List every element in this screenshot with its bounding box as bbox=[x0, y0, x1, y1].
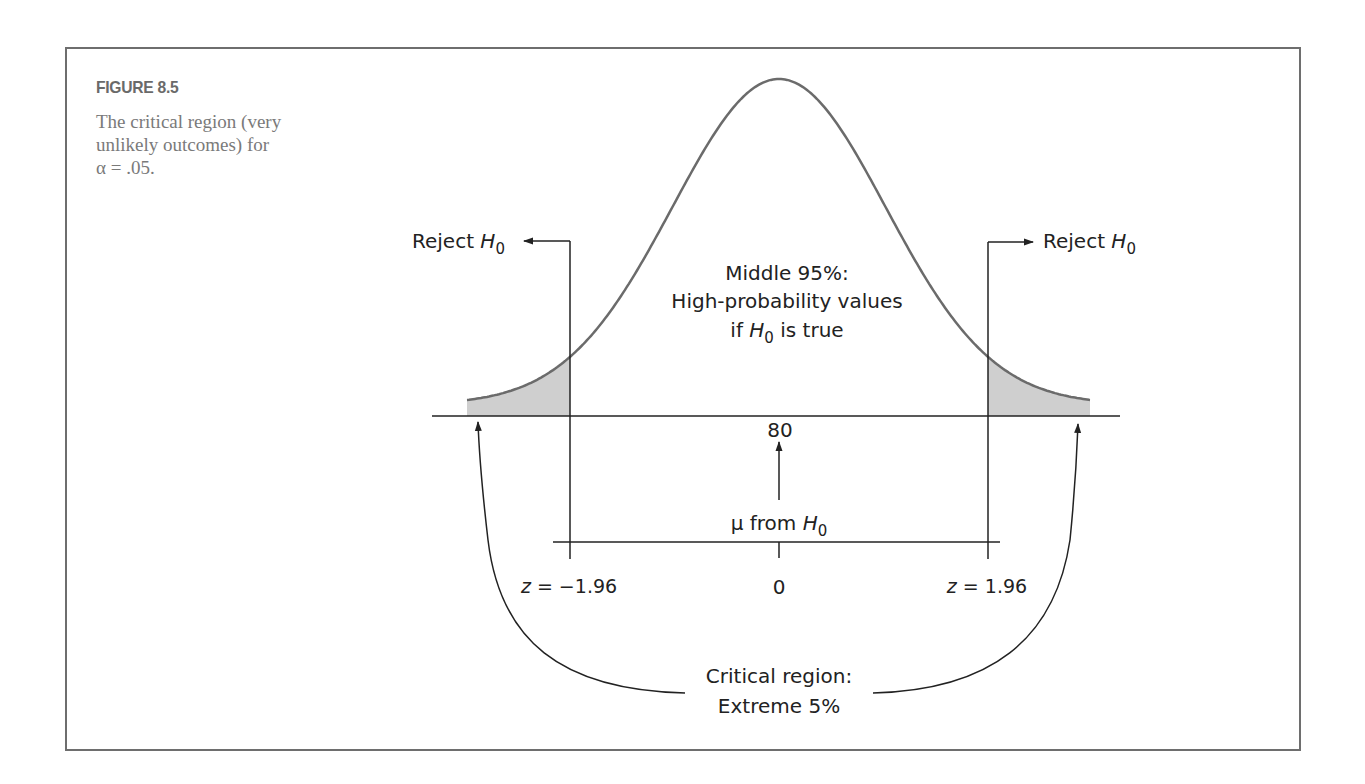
middle-95-label: Middle 95%: bbox=[725, 261, 849, 285]
extreme-5-label: Extreme 5% bbox=[718, 694, 840, 718]
mean-value-label: 80 bbox=[767, 418, 792, 442]
critical-left-curved-arrow bbox=[478, 422, 685, 693]
right-critical-shading bbox=[988, 357, 1090, 416]
z-left-label: z = −1.96 bbox=[520, 575, 617, 597]
left-critical-shading bbox=[467, 357, 570, 416]
reject-h0-left-label: Reject H0 bbox=[412, 229, 505, 258]
z-right-label: z = 1.96 bbox=[946, 575, 1027, 597]
critical-region-diagram: Reject H0 Reject H0 Middle 95%: High-pro… bbox=[0, 0, 1365, 784]
z-center-label: 0 bbox=[773, 575, 786, 599]
high-probability-label: High-probability values bbox=[671, 289, 902, 313]
critical-region-label: Critical region: bbox=[706, 664, 852, 688]
normal-distribution-curve bbox=[467, 79, 1090, 400]
mu-from-h0-label: μ from H0 bbox=[731, 511, 828, 540]
if-h0-true-label: if H0 is true bbox=[730, 318, 843, 347]
reject-h0-right-label: Reject H0 bbox=[1043, 229, 1136, 258]
critical-right-curved-arrow bbox=[873, 424, 1078, 693]
